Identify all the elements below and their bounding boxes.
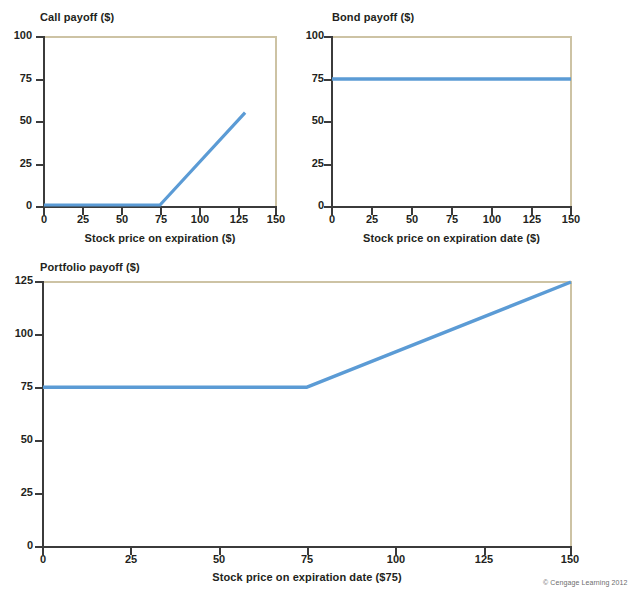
chart-portfolio-payoff: Portfolio payoff ($) 125 [0, 255, 622, 593]
copyright-notice: © Cengage Learning 2012 [543, 579, 628, 586]
x-ticklabel-portfolio-25: 25 [116, 553, 146, 565]
plot-area-bond-payoff [331, 36, 572, 206]
x-ticklabel-bond-150: 150 [556, 213, 586, 225]
y-ticklabel-call-25: 25 [4, 157, 32, 169]
x-ticklabel-call-150: 150 [261, 213, 291, 225]
chart-title-call-payoff: Call payoff ($) [40, 11, 114, 23]
y-tick-bond-100 [324, 36, 331, 38]
y-tick-call-100 [36, 36, 43, 38]
x-ticklabel-call-0: 0 [29, 213, 59, 225]
y-tick-portfolio-100 [35, 334, 42, 336]
x-ticklabel-call-25: 25 [68, 213, 98, 225]
y-tick-portfolio-25 [35, 493, 42, 495]
data-series-call-payoff [43, 36, 279, 210]
plot-area-call-payoff [43, 36, 277, 206]
chart-title-portfolio-payoff: Portfolio payoff ($) [40, 261, 140, 273]
plot-frame-right-bond [570, 36, 572, 206]
y-ticklabel-portfolio-125: 125 [2, 274, 33, 286]
y-ticklabel-bond-75: 75 [292, 72, 324, 84]
y-tick-portfolio-75 [35, 387, 42, 389]
x-axis-label-portfolio-payoff: Stock price on expiration date ($75) [42, 571, 572, 583]
x-ticklabel-portfolio-150: 150 [555, 553, 585, 565]
plot-axis-y-call [43, 36, 45, 208]
y-ticklabel-portfolio-0: 0 [2, 539, 33, 551]
plot-frame-top-portfolio [42, 281, 572, 283]
chart-title-bond-payoff: Bond payoff ($) [332, 11, 414, 23]
x-ticklabel-call-75: 75 [146, 213, 176, 225]
x-ticklabel-bond-25: 25 [357, 213, 387, 225]
x-axis-label-bond-payoff: Stock price on expiration date ($) [331, 232, 572, 244]
plot-axis-y-bond [331, 36, 333, 208]
y-tick-portfolio-0 [35, 546, 42, 548]
plot-axis-y-portfolio [42, 281, 44, 548]
x-ticklabel-bond-0: 0 [317, 213, 347, 225]
y-ticklabel-portfolio-100: 100 [2, 327, 33, 339]
y-ticklabel-bond-50: 50 [292, 114, 324, 126]
y-tick-call-25 [36, 164, 43, 166]
y-tick-bond-75 [324, 79, 331, 81]
chart-call-payoff: Call payoff ($) 100 75 [0, 0, 300, 250]
plot-frame-right-portfolio [570, 281, 572, 546]
x-ticklabel-portfolio-0: 0 [28, 553, 58, 565]
x-ticklabel-bond-125: 125 [517, 213, 547, 225]
y-ticklabel-bond-25: 25 [292, 157, 324, 169]
x-ticklabel-bond-75: 75 [437, 213, 467, 225]
x-axis-label-call-payoff: Stock price on expiration ($) [43, 232, 277, 244]
y-tick-bond-50 [324, 121, 331, 123]
y-ticklabel-bond-100: 100 [292, 29, 324, 41]
plot-frame-top-bond [331, 36, 572, 38]
y-ticklabel-call-50: 50 [4, 114, 32, 126]
y-ticklabel-portfolio-50: 50 [2, 433, 33, 445]
chart-bond-payoff: Bond payoff ($) 100 75 50 25 0 [300, 0, 622, 250]
y-tick-call-50 [36, 121, 43, 123]
y-ticklabel-call-100: 100 [4, 29, 32, 41]
y-tick-bond-25 [324, 164, 331, 166]
y-tick-call-0 [36, 206, 43, 208]
data-series-portfolio-payoff [42, 281, 574, 550]
y-tick-portfolio-125 [35, 281, 42, 283]
y-ticklabel-bond-0: 0 [292, 199, 324, 211]
x-ticklabel-call-50: 50 [107, 213, 137, 225]
plot-frame-top-call [43, 36, 277, 38]
y-tick-bond-0 [324, 206, 331, 208]
y-tick-portfolio-50 [35, 440, 42, 442]
x-ticklabel-call-125: 125 [224, 213, 254, 225]
x-ticklabel-portfolio-75: 75 [292, 553, 322, 565]
y-ticklabel-portfolio-75: 75 [2, 380, 33, 392]
data-series-bond-payoff [331, 36, 574, 210]
plot-frame-right-call [275, 36, 277, 206]
x-ticklabel-portfolio-125: 125 [469, 553, 499, 565]
x-ticklabel-bond-50: 50 [397, 213, 427, 225]
y-ticklabel-portfolio-25: 25 [2, 486, 33, 498]
y-ticklabel-call-0: 0 [4, 199, 32, 211]
x-ticklabel-portfolio-50: 50 [204, 553, 234, 565]
x-ticklabel-call-100: 100 [185, 213, 215, 225]
x-ticklabel-bond-100: 100 [477, 213, 507, 225]
plot-area-portfolio-payoff [42, 281, 572, 546]
x-ticklabel-portfolio-100: 100 [381, 553, 411, 565]
y-tick-call-75 [36, 79, 43, 81]
y-ticklabel-call-75: 75 [4, 72, 32, 84]
